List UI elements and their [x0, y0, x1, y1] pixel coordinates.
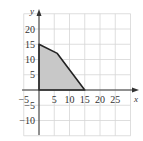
y-axis-label: y [29, 6, 34, 16]
x-axis-label: x [133, 94, 138, 104]
x-tick-label: 5 [52, 94, 57, 105]
y-tick-label: 10 [25, 54, 35, 65]
x-tick-label: 10 [65, 94, 75, 105]
x-axis-arrow-icon [132, 88, 139, 93]
y-tick-label: 20 [25, 24, 35, 35]
y-tick-label: 15 [25, 39, 35, 50]
y-axis-arrow-icon [37, 9, 42, 16]
y-tick-label: 5 [30, 69, 35, 80]
y-tick-label: −10 [19, 115, 35, 126]
x-tick-label: 20 [95, 94, 105, 105]
x-tick-label: 15 [80, 94, 90, 105]
y-tick-label: −5 [24, 100, 35, 111]
shaded-region [39, 44, 85, 90]
coordinate-plane: x y −5510152025 2015105−5−10 [0, 0, 143, 141]
x-tick-label: 25 [110, 94, 120, 105]
